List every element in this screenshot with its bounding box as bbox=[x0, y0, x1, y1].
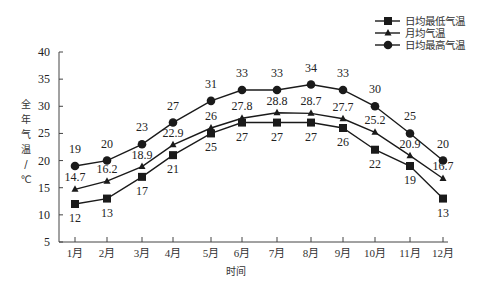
circle-marker bbox=[339, 86, 348, 95]
data-label: 33 bbox=[337, 66, 349, 80]
legend-item: 日均最高气温 bbox=[375, 39, 466, 51]
triangle-marker bbox=[440, 174, 447, 181]
triangle-marker bbox=[139, 163, 146, 170]
y-axis-title-char: ℃ bbox=[20, 174, 31, 185]
circle-marker bbox=[371, 102, 380, 111]
data-label: 12 bbox=[69, 211, 81, 225]
circle-marker bbox=[169, 118, 178, 127]
square-marker bbox=[273, 119, 281, 127]
legend-item: 日均最低气温 bbox=[375, 15, 466, 27]
data-label: 14.7 bbox=[65, 170, 86, 184]
data-label: 27 bbox=[305, 130, 317, 144]
data-label: 19 bbox=[404, 173, 416, 187]
data-label: 20 bbox=[101, 137, 113, 151]
y-tick-label: 15 bbox=[38, 181, 50, 195]
x-tick-label: 12月 bbox=[432, 247, 454, 259]
square-marker bbox=[103, 195, 111, 203]
data-label: 19 bbox=[69, 142, 81, 156]
data-label: 13 bbox=[101, 206, 113, 220]
square-marker bbox=[339, 124, 347, 132]
x-axis: 1月2月3月4月5月6月7月8月9月10月11月12月 bbox=[59, 237, 454, 259]
legend-label: 月均气温 bbox=[405, 27, 446, 39]
data-label: 20 bbox=[437, 137, 449, 151]
data-label: 18.9 bbox=[132, 148, 153, 162]
square-marker bbox=[371, 146, 379, 154]
y-tick-label: 5 bbox=[44, 235, 50, 249]
square-marker bbox=[169, 151, 177, 159]
square-marker bbox=[406, 162, 414, 170]
circle-marker bbox=[273, 86, 282, 95]
square-marker bbox=[71, 200, 79, 208]
temperature-line-chart: 510152025303540 1月2月3月4月5月6月7月8月9月10月11月… bbox=[0, 0, 481, 297]
series-layer: 12131721252727272622191314.716.218.922.9… bbox=[65, 61, 454, 225]
data-label: 26 bbox=[205, 109, 217, 123]
data-label: 17 bbox=[136, 184, 148, 198]
data-label: 27.8 bbox=[232, 99, 253, 113]
y-axis-title-char: 气 bbox=[21, 128, 31, 140]
data-label: 27 bbox=[167, 99, 179, 113]
data-label: 27 bbox=[236, 130, 248, 144]
triangle-marker bbox=[407, 152, 414, 159]
data-label: 28.7 bbox=[301, 94, 322, 108]
data-label: 31 bbox=[205, 77, 217, 91]
data-label: 22 bbox=[369, 157, 381, 171]
x-tick-label: 5月 bbox=[203, 247, 220, 259]
circle-marker bbox=[307, 80, 316, 89]
x-tick-label: 7月 bbox=[269, 247, 286, 259]
x-tick-label: 4月 bbox=[165, 247, 182, 259]
x-tick-label: 8月 bbox=[303, 247, 320, 259]
x-tick-label: 11月 bbox=[399, 247, 421, 259]
y-tick-label: 35 bbox=[38, 72, 50, 86]
square-marker bbox=[439, 195, 447, 203]
y-tick-label: 25 bbox=[38, 126, 50, 140]
square-marker bbox=[384, 17, 392, 25]
data-label: 28.8 bbox=[267, 94, 288, 108]
circle-marker bbox=[238, 86, 247, 95]
data-label: 25 bbox=[205, 140, 217, 154]
circle-marker bbox=[71, 162, 80, 171]
y-tick-label: 30 bbox=[38, 99, 50, 113]
square-marker bbox=[207, 129, 215, 137]
data-label: 21 bbox=[167, 162, 179, 176]
y-axis-title-char: 温 bbox=[21, 144, 31, 155]
y-axis-title-char: 全 bbox=[21, 98, 31, 110]
legend-label: 日均最低气温 bbox=[405, 15, 466, 27]
circle-marker bbox=[207, 97, 216, 106]
data-label: 25.2 bbox=[365, 113, 386, 127]
circle-marker bbox=[138, 140, 147, 149]
circle-marker bbox=[439, 156, 448, 165]
y-tick-label: 10 bbox=[38, 208, 50, 222]
circle-marker bbox=[406, 129, 415, 138]
x-tick-label: 10月 bbox=[364, 247, 386, 259]
y-axis-title-char: / bbox=[24, 159, 28, 170]
x-axis-title: 时间 bbox=[226, 265, 246, 277]
data-label: 27 bbox=[271, 130, 283, 144]
x-tick-label: 1月 bbox=[67, 247, 84, 259]
legend-item: 月均气温 bbox=[375, 27, 446, 39]
series-square: 121317212527272726221913 bbox=[69, 119, 449, 225]
data-label: 33 bbox=[236, 66, 248, 80]
legend: 日均最低气温月均气温日均最高气温 bbox=[375, 15, 466, 51]
x-tick-label: 9月 bbox=[335, 247, 352, 259]
x-tick-label: 3月 bbox=[134, 247, 151, 259]
legend-label: 日均最高气温 bbox=[405, 39, 466, 51]
square-marker bbox=[138, 173, 146, 181]
data-label: 33 bbox=[271, 66, 283, 80]
data-label: 13 bbox=[437, 206, 449, 220]
y-axis: 510152025303540 bbox=[38, 45, 63, 249]
triangle-marker bbox=[308, 109, 315, 116]
series-triangle: 14.716.218.922.92627.828.828.727.725.220… bbox=[65, 94, 454, 192]
triangle-marker bbox=[385, 29, 392, 36]
circle-marker bbox=[103, 156, 112, 165]
triangle-marker bbox=[274, 109, 281, 116]
circle-marker bbox=[384, 41, 393, 50]
data-label: 34 bbox=[305, 61, 317, 75]
y-axis-title: 全年气温/℃ bbox=[20, 98, 31, 185]
data-label: 27.7 bbox=[333, 100, 354, 114]
data-label: 25 bbox=[404, 109, 416, 123]
data-label: 23 bbox=[136, 120, 148, 134]
y-tick-label: 40 bbox=[38, 45, 50, 59]
y-tick-label: 20 bbox=[38, 154, 50, 168]
x-tick-label: 2月 bbox=[99, 247, 116, 259]
y-axis-title-char: 年 bbox=[21, 113, 31, 125]
